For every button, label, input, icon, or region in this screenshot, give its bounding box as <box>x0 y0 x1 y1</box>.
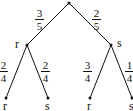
node-label-r: r <box>15 38 19 50</box>
tree-edges <box>0 0 133 111</box>
edge-root-s <box>69 3 111 45</box>
leaf-label-4: s <box>129 100 133 111</box>
numerator: 2 <box>42 60 50 70</box>
node-r <box>26 44 29 47</box>
numerator: 1 <box>126 60 133 70</box>
numerator: 3 <box>84 60 92 70</box>
prob-r-left: 2 4 <box>0 60 8 83</box>
prob-root-left: 3 5 <box>35 8 44 31</box>
denominator: 5 <box>93 21 101 31</box>
node-s <box>110 44 113 47</box>
prob-s-right: 1 4 <box>125 60 133 83</box>
denominator: 4 <box>0 73 7 83</box>
edge-s-r <box>90 45 111 98</box>
prob-s-left: 3 4 <box>83 60 92 83</box>
node-root <box>68 2 71 5</box>
denominator: 4 <box>42 73 50 83</box>
numerator: 2 <box>0 60 7 70</box>
node-label-s: s <box>117 37 122 49</box>
prob-r-right: 2 4 <box>41 60 50 83</box>
denominator: 4 <box>84 73 92 83</box>
denominator: 5 <box>36 21 44 31</box>
leaf-label-3: r <box>87 100 91 111</box>
denominator: 4 <box>126 73 133 83</box>
leaf-label-2: s <box>45 100 50 111</box>
prob-root-right: 2 5 <box>92 8 101 31</box>
numerator: 3 <box>36 8 44 18</box>
edge-root-r <box>27 3 69 45</box>
edge-r-r <box>6 45 27 98</box>
leaf-label-1: r <box>3 100 7 111</box>
numerator: 2 <box>93 8 101 18</box>
